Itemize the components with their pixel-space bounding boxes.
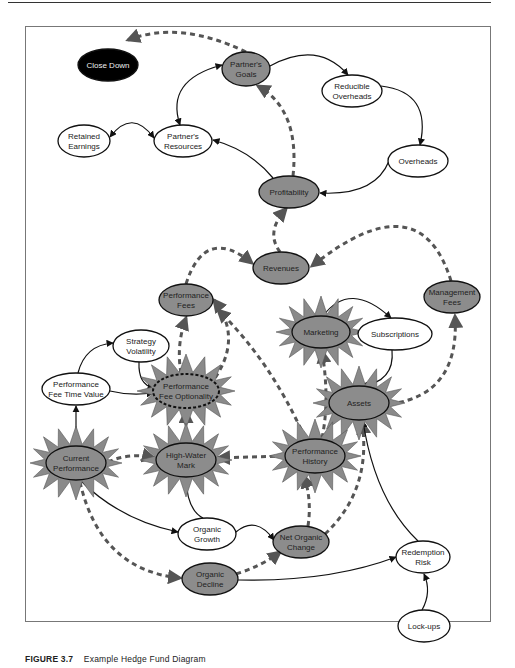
edge-profitability-to-partners-goals [258,86,294,176]
node-label: Overheads [332,92,371,101]
node-label: Redemption [401,548,444,557]
figure-number: FIGURE 3.7 [25,654,73,664]
edge-organic-growth-to-net-organic-change [236,525,274,540]
node-performance-fee-time-value: PerformanceFee Time Value [42,373,110,405]
node-shape [46,446,106,480]
node-label: Fees [443,298,461,307]
node-label: Reducible [334,82,370,91]
node-shape [222,52,270,86]
node-high-water-mark: High-WaterMark [156,443,216,477]
node-profitability: Profitability [259,176,319,208]
node-label: Close Down [86,61,129,70]
node-label: Organic [193,525,221,534]
node-shape [178,518,236,550]
edge-lock-ups-to-redemption-risk [422,574,428,610]
edge-performance-fee-time-value-to-strategy-volatility [78,343,113,373]
edge-current-performance-to-organic-decline [80,482,180,578]
node-partners-goals: Partner'sGoals [222,52,270,86]
edge-partners-resources-to-partners-goals [177,65,222,125]
node-label: Fee Time Value [48,390,104,399]
node-retained-earnings: RetainedEarnings [58,125,110,157]
edge-management-fees-to-revenues [312,226,451,281]
node-net-organic-change: Net OrganicChange [273,526,329,558]
figure-title: Example Hedge Fund Diagram [84,654,206,664]
node-organic-decline: OrganicDecline [182,563,238,595]
node-label: Performance [292,447,338,456]
node-label: Retained [68,132,100,141]
node-performance-history: PerformanceHistory [285,439,345,473]
edge-partners-goals-to-reducible-overheads [270,55,348,75]
node-label: Performance [53,464,99,473]
node-shape [182,563,238,595]
node-marketing: Marketing [292,316,350,348]
node-label: Marketing [303,328,338,337]
node-current-performance: CurrentPerformance [46,446,106,480]
edge-organic-decline-to-redemption-risk [238,557,396,580]
edge-revenues-to-profitability [274,209,286,252]
edge-organic-decline-to-net-organic-change [236,552,280,574]
node-label: Performance [53,380,99,389]
node-label: Performance [163,382,209,391]
causal-loop-diagram: Close DownPartner'sGoalsReducibleOverhea… [0,0,515,668]
edge-performance-fees-to-revenues [186,248,252,284]
edge-profitability-to-partners-resources [213,140,273,178]
node-label: Goals [236,70,257,79]
node-label: Performance [163,291,209,300]
node-shape [159,284,213,316]
node-label: Fee Optionality [159,392,213,401]
node-shape [153,374,219,408]
node-label: Partner's [230,60,262,69]
node-label: Growth [194,535,220,544]
node-label: Lock-ups [408,622,440,631]
node-label: Revenues [263,264,299,273]
node-shape [424,281,480,313]
node-shape [396,541,450,573]
node-label: Organic [196,570,224,579]
edge-net-organic-change-to-performance-history [304,476,309,526]
node-shape [285,439,345,473]
node-close-down: Close Down [78,49,138,81]
node-organic-growth: OrganicGrowth [178,518,236,550]
edge-current-performance-to-organic-growth [80,480,178,532]
node-label: Strategy [126,337,156,346]
node-label: Change [287,543,316,552]
figure-caption: FIGURE 3.7 Example Hedge Fund Diagram [25,654,206,664]
node-label: High-Water [166,451,206,460]
edge-reducible-overheads-to-overheads [381,86,422,145]
nodes: Close DownPartner'sGoalsReducibleOverhea… [42,49,480,642]
node-performance-fee-optionality: PerformanceFee Optionality [153,374,219,408]
node-label: Risk [415,558,432,567]
node-shape [273,526,329,558]
node-partners-resources: Partner'sResources [154,125,212,157]
node-lock-ups: Lock-ups [398,610,450,642]
node-label: Volatility [126,347,155,356]
node-label: Management [429,288,476,297]
node-strategy-volatility: StrategyVolatility [113,330,169,362]
node-performance-fees: PerformanceFees [159,284,213,316]
node-overheads: Overheads [388,145,448,177]
node-label: Earnings [68,142,100,151]
node-label: Profitability [269,188,308,197]
node-label: Partner's [167,132,199,141]
edge-redemption-risk-to-assets [363,421,418,541]
node-shape [58,125,110,157]
node-label: Mark [177,461,196,470]
node-management-fees: ManagementFees [424,281,480,313]
node-label: Resources [164,142,202,151]
node-assets: Assets [329,386,389,420]
node-shape [42,373,110,405]
node-label: Assets [347,399,371,408]
edge-partners-resources-to-retained-earnings [110,123,154,138]
node-label: Net Organic [280,533,323,542]
node-label: Fees [177,301,195,310]
node-label: History [303,457,328,466]
edge-overheads-to-profitability [320,161,389,193]
node-label: Current [63,454,90,463]
node-revenues: Revenues [253,252,309,284]
node-shape [322,75,382,107]
node-shape [113,330,169,362]
node-redemption-risk: RedemptionRisk [396,541,450,573]
node-subscriptions: Subscriptions [358,318,432,350]
node-shape [154,125,212,157]
node-label: Decline [197,580,224,589]
